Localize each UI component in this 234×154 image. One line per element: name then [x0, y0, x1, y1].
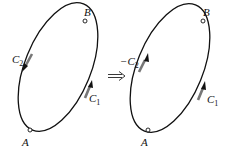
left-closed-curve — [2, 0, 114, 142]
right-closed-curve — [114, 0, 226, 143]
left-label-c2: C2 — [12, 53, 23, 68]
right-label-a: A — [140, 136, 148, 148]
left-c1-arrow-up-icon — [88, 80, 93, 88]
right-c1-segment — [198, 88, 203, 100]
left-label-c1: C1 — [89, 92, 100, 107]
right-figure: A B −C2 C1 — [114, 0, 226, 148]
diagram-canvas: A B C2 C1 A B −C2 C1 — [0, 0, 234, 154]
right-label-b: B — [203, 6, 210, 18]
right-point-a — [146, 128, 150, 132]
left-point-a — [28, 128, 32, 132]
right-label-neg-c2: −C2 — [120, 55, 139, 70]
right-point-b — [201, 19, 205, 23]
left-point-b — [83, 19, 87, 23]
left-figure: A B C2 C1 — [2, 0, 114, 148]
implies-arrow-icon — [108, 72, 125, 81]
right-neg-c2-arrow-up-icon — [144, 53, 149, 62]
left-label-a: A — [21, 136, 29, 148]
left-label-b: B — [84, 6, 91, 18]
right-label-c1: C1 — [207, 93, 218, 108]
right-c1-arrow-up-icon — [201, 81, 206, 90]
right-neg-c2-segment — [139, 60, 145, 72]
